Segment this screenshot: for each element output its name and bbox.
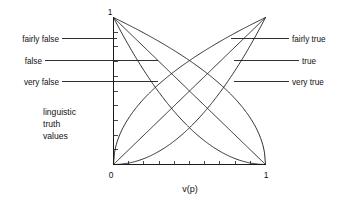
label-fairly-true: fairly true — [292, 35, 326, 44]
x-axis-title: v(p) — [182, 184, 198, 194]
linguistic-truth-values-figure: fairly false false very false fairly tru… — [0, 0, 351, 201]
x-axis-max-label: 1 — [264, 170, 269, 180]
block-label-line2: truth — [43, 119, 60, 129]
block-label-line3: values — [43, 131, 68, 141]
label-false: false — [25, 57, 43, 66]
x-axis-min-label: 0 — [109, 170, 114, 180]
label-very-false: very false — [24, 78, 59, 87]
label-true: true — [302, 57, 317, 66]
label-very-true: very true — [292, 78, 324, 87]
left-leader-lines — [45, 39, 158, 82]
block-label-line1: linguistic — [43, 107, 77, 117]
chart-svg: fairly false false very false fairly tru… — [0, 0, 351, 201]
curves-group — [114, 18, 266, 165]
x-axis-ticks — [129, 161, 251, 165]
y-axis-max-label: 1 — [108, 7, 113, 17]
y-axis-ticks — [114, 32, 118, 150]
label-fairly-false: fairly false — [22, 35, 59, 44]
